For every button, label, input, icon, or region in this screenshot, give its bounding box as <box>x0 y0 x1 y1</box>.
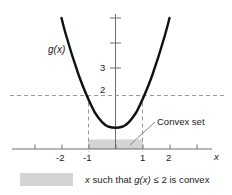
convex-set-callout-label: Convex set <box>157 117 205 127</box>
x-tick-label-2: 2 <box>166 153 171 163</box>
figure-caption: x such that g(x) ≤ 2 is convex <box>85 175 209 185</box>
x-tick-label-1: 1 <box>140 153 145 163</box>
x-tick-label-neg2: -2 <box>56 153 65 163</box>
y-tick-label-2: 2 <box>100 85 105 95</box>
caption-tail: ≤ 2 is convex <box>151 174 210 185</box>
x-axis-label: x <box>214 152 219 162</box>
caption-mid: such that <box>90 174 134 185</box>
y-tick-label-3: 3 <box>100 63 105 73</box>
plot-canvas <box>0 0 232 195</box>
caption-gx: g(x) <box>134 174 151 185</box>
convex-set-figure: g(x) 3 2 -2 -1 1 2 x Convex set x such t… <box>0 0 232 195</box>
function-label: g(x) <box>48 45 65 55</box>
legend-swatch <box>20 173 73 186</box>
x-tick-label-neg1: -1 <box>83 153 92 163</box>
